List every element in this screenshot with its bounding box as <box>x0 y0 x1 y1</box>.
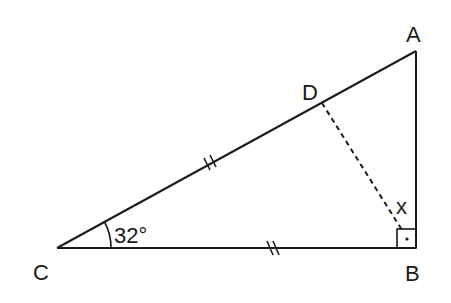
triangle-diagram: A B C D 32° x <box>0 0 451 303</box>
vertex-label-C: C <box>33 260 49 285</box>
unknown-angle-label: x <box>396 194 407 219</box>
segment-CA <box>57 51 416 248</box>
right-angle-dot <box>405 237 408 240</box>
vertex-label-D: D <box>302 80 318 105</box>
tick-marks-CA <box>204 155 216 170</box>
vertex-label-A: A <box>406 22 421 47</box>
vertex-label-B: B <box>405 261 420 286</box>
angle-label: 32° <box>114 223 147 248</box>
angle-arc-C <box>104 221 111 248</box>
segment-DB <box>322 103 402 230</box>
